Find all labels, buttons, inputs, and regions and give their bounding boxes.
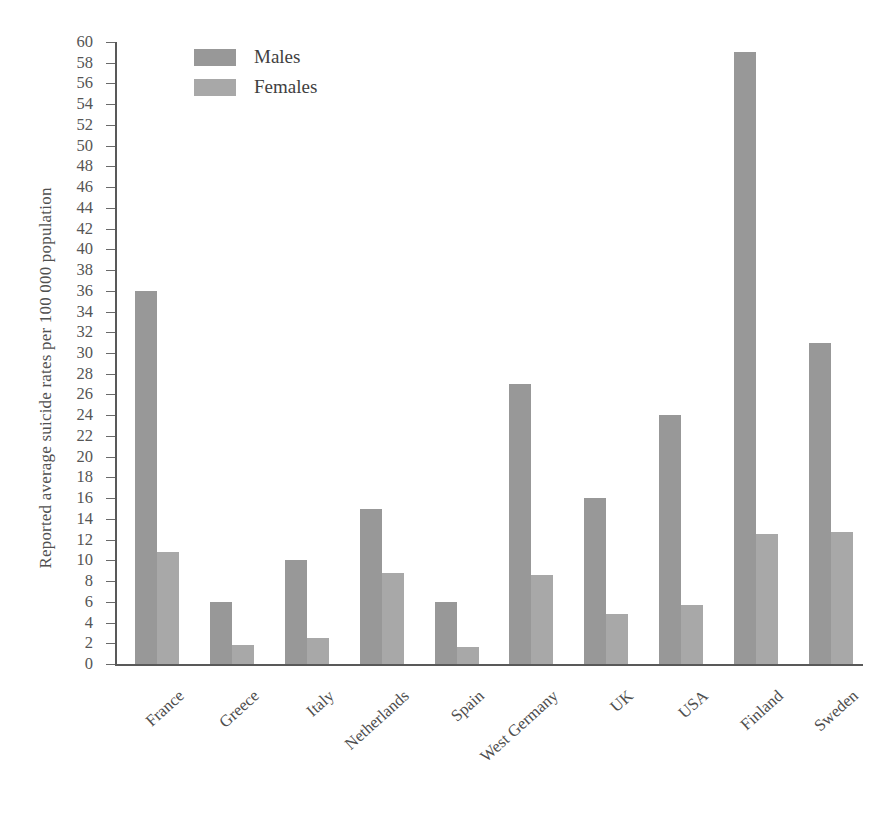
y-tick: 46: [106, 187, 115, 188]
y-axis-title: Reported average suicide rates per 100 0…: [36, 118, 56, 638]
y-tick: 52: [106, 125, 115, 126]
y-tick-label: 58: [77, 53, 94, 73]
y-tick-label: 56: [77, 73, 94, 93]
bar-males: [734, 52, 756, 664]
bar-females: [232, 645, 254, 664]
bar-chart-figure: Reported average suicide rates per 100 0…: [0, 0, 879, 819]
bar-females: [531, 575, 553, 664]
bar-females: [756, 534, 778, 664]
y-tick: 14: [106, 519, 115, 520]
x-category-label: Italy: [303, 686, 339, 721]
y-tick-label: 48: [77, 156, 94, 176]
bar-males: [659, 415, 681, 664]
y-tick: 6: [106, 602, 115, 603]
x-category-label: Spain: [447, 686, 488, 726]
bar-males: [285, 560, 307, 664]
y-tick-label: 8: [85, 571, 93, 591]
y-tick: 18: [106, 477, 115, 478]
bar-females: [606, 614, 628, 664]
x-category-label: UK: [606, 686, 637, 717]
y-tick-label: 60: [77, 32, 94, 52]
bar-males: [584, 498, 606, 664]
bar-group: [135, 42, 179, 664]
y-tick-label: 50: [77, 135, 94, 155]
y-tick: 24: [106, 415, 115, 416]
y-tick: 4: [106, 623, 115, 624]
y-tick-label: 34: [77, 301, 94, 321]
y-tick: 34: [106, 312, 115, 313]
y-tick: 42: [106, 229, 115, 230]
y-tick-label: 42: [77, 218, 94, 238]
y-tick-label: 26: [77, 384, 94, 404]
y-tick: 20: [106, 457, 115, 458]
x-category-label: Finland: [736, 686, 787, 735]
x-category-label: Sweden: [810, 686, 862, 736]
y-tick: 2: [106, 643, 115, 644]
bar-females: [457, 647, 479, 664]
y-tick: 48: [106, 166, 115, 167]
y-tick: 60: [106, 42, 115, 43]
y-tick-label: 32: [77, 322, 94, 342]
bar-group: [435, 42, 479, 664]
y-tick-label: 40: [77, 239, 94, 259]
y-tick: 58: [106, 63, 115, 64]
x-category-label: France: [142, 686, 189, 731]
bar-group: [285, 42, 329, 664]
y-tick-label: 24: [77, 405, 94, 425]
bar-group: [734, 42, 778, 664]
bar-females: [681, 605, 703, 664]
y-tick-label: 38: [77, 260, 94, 280]
plot-area: 0246810121416182022242628303234363840424…: [115, 42, 863, 665]
y-tick-label: 0: [85, 654, 93, 674]
bar-group: [809, 42, 853, 664]
y-tick: 10: [106, 560, 115, 561]
y-tick: 12: [106, 540, 115, 541]
bar-males: [210, 602, 232, 664]
x-category-label: Greece: [215, 686, 263, 732]
y-tick: 44: [106, 208, 115, 209]
y-tick-label: 54: [77, 94, 94, 114]
y-tick: 30: [106, 353, 115, 354]
y-tick: 26: [106, 394, 115, 395]
y-tick-label: 22: [77, 426, 94, 446]
y-tick: 8: [106, 581, 115, 582]
y-tick-label: 12: [77, 529, 94, 549]
y-tick: 56: [106, 83, 115, 84]
y-tick: 40: [106, 249, 115, 250]
y-tick-label: 28: [77, 364, 94, 384]
bar-females: [831, 532, 853, 664]
x-category-label: Netherlands: [341, 686, 414, 754]
y-tick: 32: [106, 332, 115, 333]
bar-females: [157, 552, 179, 664]
bar-males: [509, 384, 531, 664]
y-tick: 36: [106, 291, 115, 292]
y-tick-label: 6: [85, 592, 93, 612]
y-tick: 38: [106, 270, 115, 271]
y-tick-label: 16: [77, 488, 94, 508]
y-tick: 22: [106, 436, 115, 437]
y-tick-label: 46: [77, 177, 94, 197]
y-tick-label: 30: [77, 343, 94, 363]
x-category-label: USA: [674, 686, 712, 723]
bar-group: [509, 42, 553, 664]
bar-males: [435, 602, 457, 664]
bar-males: [135, 291, 157, 664]
y-tick-label: 18: [77, 467, 94, 487]
y-tick-label: 2: [85, 633, 93, 653]
y-tick-label: 20: [77, 446, 94, 466]
y-tick-label: 14: [77, 509, 94, 529]
y-tick-label: 44: [77, 198, 94, 218]
bar-females: [307, 638, 329, 664]
y-tick: 28: [106, 374, 115, 375]
y-tick-label: 52: [77, 115, 94, 135]
y-tick: 16: [106, 498, 115, 499]
bar-group: [360, 42, 404, 664]
bar-females: [382, 573, 404, 664]
y-axis-line: [115, 42, 117, 665]
y-tick: 0: [106, 664, 115, 665]
y-tick-label: 10: [77, 550, 94, 570]
y-tick: 54: [106, 104, 115, 105]
bar-group: [659, 42, 703, 664]
x-axis-line: [115, 664, 863, 666]
y-tick: 50: [106, 146, 115, 147]
